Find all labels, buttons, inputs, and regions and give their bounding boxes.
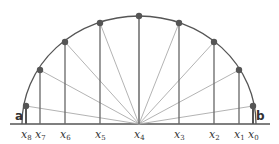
node-label: x8 [21, 128, 32, 142]
node-dot [211, 39, 217, 45]
node-dot [37, 67, 43, 73]
node-dot [62, 39, 68, 45]
node-dot [97, 20, 103, 26]
node-dot [23, 103, 29, 109]
node-label: x4 [134, 128, 145, 142]
node-label: x1 [234, 128, 245, 142]
verticals-group [26, 16, 253, 124]
ray-line [139, 42, 214, 124]
node-label: x5 [95, 128, 106, 142]
endpoint-a-label: a [15, 109, 23, 123]
endpoint-b-label: b [256, 109, 265, 123]
node-dot [136, 13, 142, 19]
node-label: x3 [174, 128, 185, 142]
ray-line [100, 23, 139, 124]
node-label: x2 [209, 128, 220, 142]
node-dot [176, 20, 182, 26]
node-label: x7 [35, 128, 46, 142]
node-dot [236, 67, 242, 73]
semicircle-diagram: x0x1x2x3x4x5x6x7x8 a b [0, 0, 279, 144]
ray-line [65, 42, 139, 124]
ray-line [139, 23, 179, 124]
labels-group: x0x1x2x3x4x5x6x7x8 [21, 128, 259, 142]
node-label: x0 [248, 128, 259, 142]
node-label: x6 [60, 128, 71, 142]
